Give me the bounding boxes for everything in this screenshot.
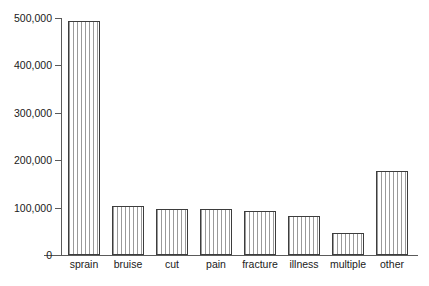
x-axis-label: sprain — [62, 258, 106, 271]
y-axis-tick-label: 0 — [0, 250, 52, 260]
bar — [376, 171, 408, 255]
bar — [68, 21, 100, 255]
bar-slot — [244, 18, 276, 255]
x-axis-line — [44, 255, 418, 256]
bar — [156, 209, 188, 255]
y-axis-tick-label: 300,000 — [0, 108, 52, 118]
bar-slot — [288, 18, 320, 255]
y-axis-tick — [55, 113, 61, 114]
x-axis-label: other — [370, 258, 414, 271]
y-axis-tick-label: 200,000 — [0, 155, 52, 165]
x-axis-label: pain — [194, 258, 238, 271]
y-axis-tick — [55, 18, 61, 19]
y-axis-tick-label: 400,000 — [0, 60, 52, 70]
y-axis-tick — [55, 160, 61, 161]
y-axis-tick — [55, 208, 61, 209]
bar — [332, 233, 364, 255]
x-axis-label: multiple — [326, 258, 370, 271]
bar-slot — [68, 18, 100, 255]
y-axis-tick-label: 100,000 — [0, 203, 52, 213]
bar — [244, 211, 276, 255]
bar-slot — [332, 18, 364, 255]
y-axis-tick — [55, 65, 61, 66]
x-axis-category-labels: sprainbruisecutpainfractureillnessmultip… — [62, 258, 414, 278]
x-axis-label: bruise — [106, 258, 150, 271]
bar — [288, 216, 320, 255]
x-axis-label: cut — [150, 258, 194, 271]
bar-slot — [156, 18, 188, 255]
bar-slot — [112, 18, 144, 255]
x-axis-label: fracture — [238, 258, 282, 271]
bar-slot — [376, 18, 408, 255]
y-axis-tick-label: 500,000 — [0, 13, 52, 23]
bar-chart: 0100,000200,000300,000400,000500,000 spr… — [0, 0, 429, 286]
bar — [112, 206, 144, 255]
bar — [200, 209, 232, 255]
x-axis-label: illness — [282, 258, 326, 271]
bar-slot — [200, 18, 232, 255]
bar-series — [62, 18, 414, 255]
y-axis-tick — [55, 255, 61, 256]
